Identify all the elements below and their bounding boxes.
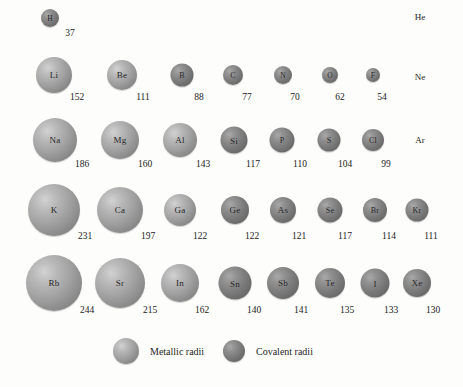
element-symbol: Kr <box>406 199 429 222</box>
legend-swatch-covalent <box>223 340 245 362</box>
element-li: Li <box>36 57 72 93</box>
radius-value-te: 135 <box>340 305 354 315</box>
radius-value-s: 104 <box>338 159 352 169</box>
radius-value-na: 186 <box>75 159 89 169</box>
radius-value-ca: 197 <box>141 231 155 241</box>
element-symbol: Ge <box>221 196 249 224</box>
radius-value-in: 162 <box>195 305 209 315</box>
element-rb: Rb <box>26 255 82 311</box>
element-c: C <box>223 65 243 85</box>
sphere-sr: Sr <box>95 258 145 308</box>
element-al: Al <box>163 123 197 157</box>
element-symbol: As <box>270 197 296 223</box>
sphere-k: K <box>28 184 80 236</box>
sphere-f: F <box>366 68 380 82</box>
element-symbol: Li <box>36 57 72 93</box>
sphere-li: Li <box>36 57 72 93</box>
sphere-be: Be <box>107 60 137 90</box>
element-symbol: Si <box>221 127 248 154</box>
sphere-br: Br <box>363 198 387 222</box>
radius-value-k: 231 <box>78 231 92 241</box>
atomic-radii-chart: H37HeLi152Be111B88C77N70O62F54NeNa186Mg1… <box>0 0 463 387</box>
radius-value-f: 54 <box>377 92 387 102</box>
radius-value-i: 133 <box>384 305 398 315</box>
element-symbol: Se <box>318 198 343 223</box>
element-o: O <box>322 67 338 83</box>
element-symbol: Be <box>107 60 137 90</box>
radius-value-ge: 122 <box>245 231 259 241</box>
sphere-h: H <box>41 9 59 27</box>
element-symbol: C <box>223 65 243 85</box>
sphere-i: I <box>361 269 390 298</box>
noble-gas-label-ne: Ne <box>415 72 426 82</box>
sphere-si: Si <box>221 127 248 154</box>
element-na: Na <box>33 118 77 162</box>
radius-value-br: 114 <box>382 231 396 241</box>
sphere-s: S <box>318 129 341 152</box>
element-symbol: B <box>171 64 194 87</box>
sphere-ga: Ga <box>164 194 196 226</box>
element-ca: Ca <box>97 187 143 233</box>
radius-value-kr: 111 <box>424 231 438 241</box>
legend-label-metallic: Metallic radii <box>150 346 204 357</box>
radius-value-as: 121 <box>292 231 306 241</box>
element-ga: Ga <box>164 194 196 226</box>
element-se: Se <box>318 198 343 223</box>
sphere-sb: Sb <box>267 267 299 299</box>
element-symbol: Sn <box>219 267 252 300</box>
element-symbol: I <box>361 269 390 298</box>
element-symbol: Te <box>315 268 345 298</box>
element-symbol: Al <box>163 123 197 157</box>
sphere-ca: Ca <box>97 187 143 233</box>
legend-item-metallic: Metallic radii <box>113 338 204 364</box>
sphere-na: Na <box>33 118 77 162</box>
radius-value-b: 88 <box>194 92 204 102</box>
element-sb: Sb <box>267 267 299 299</box>
noble-gas-label-ar: Ar <box>415 135 425 145</box>
legend-item-covalent: Covalent radii <box>223 340 313 362</box>
radius-value-h: 37 <box>65 28 75 38</box>
radius-value-sr: 215 <box>143 305 157 315</box>
element-sn: Sn <box>219 267 252 300</box>
sphere-se: Se <box>318 198 343 223</box>
element-symbol: H <box>41 9 59 27</box>
radius-value-mg: 160 <box>138 159 152 169</box>
element-as: As <box>270 197 296 223</box>
element-br: Br <box>363 198 387 222</box>
radius-value-be: 111 <box>136 92 150 102</box>
sphere-mg: Mg <box>101 121 139 159</box>
element-i: I <box>361 269 390 298</box>
radius-value-rb: 244 <box>80 305 94 315</box>
element-symbol: O <box>322 67 338 83</box>
sphere-as: As <box>270 197 296 223</box>
radius-value-o: 62 <box>335 92 345 102</box>
element-be: Be <box>107 60 137 90</box>
element-te: Te <box>315 268 345 298</box>
element-symbol: K <box>28 184 80 236</box>
element-symbol: Na <box>33 118 77 162</box>
sphere-sn: Sn <box>219 267 252 300</box>
element-p: P <box>270 128 295 153</box>
element-f: F <box>366 68 380 82</box>
legend-swatch-metallic <box>113 338 139 364</box>
sphere-al: Al <box>163 123 197 157</box>
sphere-c: C <box>223 65 243 85</box>
element-symbol: N <box>274 66 292 84</box>
element-symbol: F <box>366 68 380 82</box>
element-symbol: In <box>161 264 199 302</box>
element-mg: Mg <box>101 121 139 159</box>
element-symbol: Mg <box>101 121 139 159</box>
element-symbol: Xe <box>403 269 431 297</box>
element-h: H <box>41 9 59 27</box>
element-b: B <box>171 64 194 87</box>
element-symbol: Cl <box>362 129 384 151</box>
radius-value-sb: 141 <box>294 305 308 315</box>
sphere-rb: Rb <box>26 255 82 311</box>
radius-value-cl: 99 <box>381 159 391 169</box>
element-symbol: Ca <box>97 187 143 233</box>
element-k: K <box>28 184 80 236</box>
radius-value-sn: 140 <box>247 305 261 315</box>
element-in: In <box>161 264 199 302</box>
legend-label-covalent: Covalent radii <box>256 346 313 357</box>
sphere-cl: Cl <box>362 129 384 151</box>
